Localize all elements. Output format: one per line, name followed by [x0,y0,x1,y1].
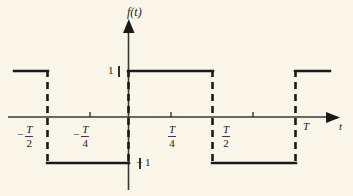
square-wave-figure: f(t) t 1 − 1 − T 2 − T 4 T 4 [0,0,353,196]
y-axis [123,19,135,190]
level-label-negative-one: − 1 [136,157,150,168]
tick-label-neg-t-over-2: − T 2 [17,124,33,149]
tick-label-t: T [303,121,309,132]
tick-label-t-over-2: T 2 [220,124,230,149]
y-axis-label: f(t) [127,6,142,18]
denominator: 2 [223,137,229,149]
x-axis [8,112,340,123]
tick-label-t-over-4: T 4 [166,124,176,149]
plot-canvas [0,0,353,196]
level-label-positive-one: 1 [108,65,114,76]
numerator: T [25,124,33,135]
minus-sign: − [73,124,79,140]
tick-label-neg-t-over-4: − T 4 [73,124,89,149]
numerator: T [222,124,230,135]
denominator: 2 [27,137,33,149]
numerator: T [168,124,176,135]
x-axis-label: t [339,121,342,132]
minus-sign: − [17,124,23,140]
denominator: 4 [169,137,175,149]
numerator: T [81,124,89,135]
denominator: 4 [83,137,89,149]
